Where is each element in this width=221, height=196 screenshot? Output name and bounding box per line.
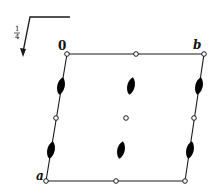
inversion-center-icon [134, 52, 139, 57]
inversion-center-icon [202, 52, 207, 57]
inversion-centers [44, 52, 207, 184]
screw-axis-icon [115, 140, 126, 159]
arrow-head-icon [20, 48, 26, 57]
height-denominator: 4 [15, 33, 20, 41]
inversion-center-icon [192, 116, 197, 121]
inversion-center-icon [183, 179, 188, 184]
axis-a-label: a [36, 169, 44, 183]
inversion-center-icon [65, 52, 70, 57]
inversion-center-icon [54, 116, 59, 121]
inversion-center-icon [124, 116, 129, 121]
screw-axis-icon [125, 76, 136, 95]
screw-axis-icon [193, 76, 204, 95]
axis-b-label: b [193, 38, 201, 52]
screw-axis-icon [184, 140, 195, 159]
height-numerator: 1 [15, 25, 19, 33]
origin-label: 0 [58, 39, 66, 53]
screw-axis-icon [55, 76, 66, 95]
screw-axis-icon [45, 140, 56, 159]
symmetry-diagram: 1 4 0 b a [0, 0, 221, 196]
inversion-center-icon [114, 179, 119, 184]
inversion-center-icon [44, 179, 49, 184]
